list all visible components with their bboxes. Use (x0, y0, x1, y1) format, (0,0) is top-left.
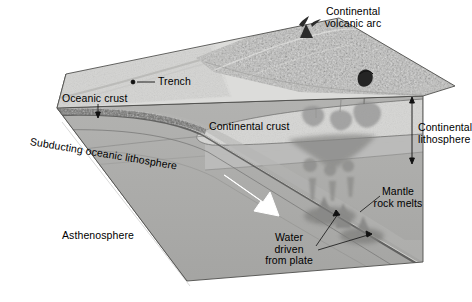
label-oceanic-crust: Oceanic crust (62, 93, 128, 105)
label-continental-crust: Continental crust (209, 121, 290, 133)
label-trench: Trench (158, 76, 191, 88)
label-asthenosphere: Asthenosphere (62, 230, 134, 242)
label-mantle-rock-melts: Mantle rock melts (360, 186, 436, 209)
label-continental-volcanic-arc: Continental volcanic arc (303, 6, 403, 29)
label-water-driven-from-plate: Water driven from plate (258, 232, 320, 267)
label-continental-lithosphere: Continental lithosphere (418, 122, 472, 145)
